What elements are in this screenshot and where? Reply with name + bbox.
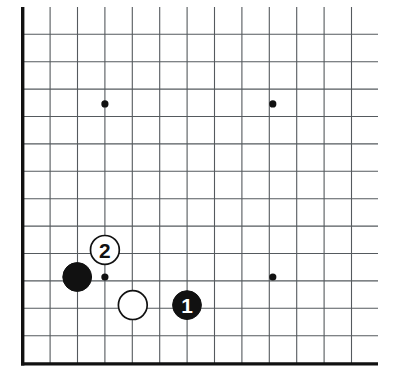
- black-stone-move-1-label: 1: [181, 294, 193, 317]
- black-stone-corner[interactable]: [63, 263, 92, 292]
- board-background: [0, 0, 400, 386]
- star-point-lower-right: [269, 273, 276, 280]
- star-point-upper-left: [101, 100, 108, 107]
- go-board-diagram: 21: [0, 0, 400, 386]
- star-point-lower-left: [101, 273, 108, 280]
- star-point-upper-right: [269, 100, 276, 107]
- white-stone-plain[interactable]: [118, 291, 147, 320]
- go-board-canvas: 21: [0, 0, 400, 386]
- white-stone-move-2-label: 2: [99, 239, 111, 262]
